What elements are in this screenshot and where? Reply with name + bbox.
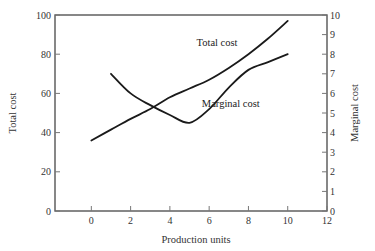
y-axis-label: Total cost: [7, 92, 18, 133]
y-tick-label: 100: [36, 10, 51, 21]
y2-tick-label: 7: [330, 68, 335, 79]
y-tick-label: 0: [46, 206, 51, 217]
x-tick-label: 12: [322, 215, 332, 226]
y-tick-label: 80: [41, 49, 51, 60]
marginal-cost-annotation: Marginal cost: [202, 98, 260, 109]
x-tick-label: 2: [128, 215, 133, 226]
y2-axis-label: Marginal cost: [349, 84, 360, 142]
x-tick-label: 4: [167, 215, 172, 226]
y-tick-label: 40: [41, 127, 51, 138]
y2-tick-label: 2: [330, 166, 335, 177]
x-tick-label: 0: [89, 215, 94, 226]
series-lines: [91, 21, 287, 141]
x-axis-label: Production units: [161, 234, 230, 245]
y2-tick-label: 6: [330, 88, 335, 99]
x-tick-label: 8: [246, 215, 251, 226]
y2-tick-label: 9: [330, 29, 335, 40]
x-tick-label: 10: [283, 215, 293, 226]
total-cost-annotation: Total cost: [197, 37, 238, 48]
y-tick-label: 60: [41, 88, 51, 99]
y2-tick-label: 5: [330, 108, 335, 119]
axis-labels: 020406080100012345678910024681012Total c…: [7, 10, 360, 246]
plot-border: [55, 15, 327, 211]
y2-tick-label: 3: [330, 147, 335, 158]
y2-tick-label: 4: [330, 127, 335, 138]
x-tick-label: 6: [207, 215, 212, 226]
y2-tick-label: 10: [330, 10, 340, 21]
cost-chart: 020406080100012345678910024681012Total c…: [0, 0, 375, 251]
y-tick-label: 20: [41, 166, 51, 177]
marginal-cost-line: [111, 54, 288, 123]
y2-tick-label: 1: [330, 186, 335, 197]
plot-frame: [55, 15, 327, 211]
y2-tick-label: 8: [330, 49, 335, 60]
